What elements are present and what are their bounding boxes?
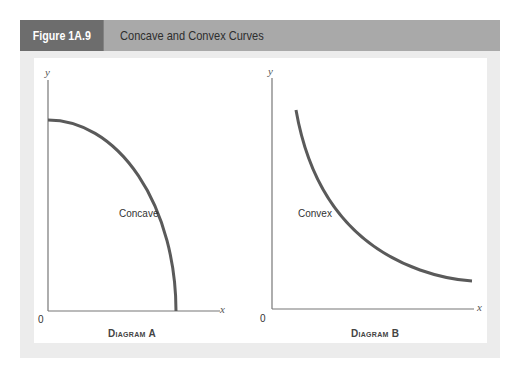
diagram-b-x-label: x (477, 301, 482, 313)
diagram-b-axes (272, 78, 474, 309)
diagram-b-y-label: y (268, 65, 273, 77)
convex-curve (296, 110, 472, 281)
convex-label: Convex (298, 208, 332, 219)
concave-label: Concave (119, 208, 158, 219)
diagram-a-origin-label: 0 (38, 314, 44, 325)
diagram-a-axes (48, 80, 220, 311)
diagram-b-origin-label: 0 (260, 313, 266, 324)
diagram-a-y-label: y (45, 66, 50, 78)
diagrams-canvas (0, 0, 517, 373)
diagram-b-caption: Diagram B (351, 328, 399, 339)
diagram-a-x-label: x (220, 303, 225, 315)
diagram-a-caption: Diagram A (108, 328, 156, 339)
